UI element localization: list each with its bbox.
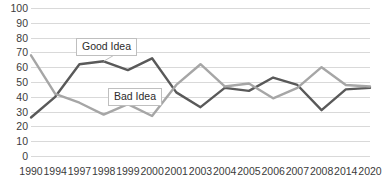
- callout-good-idea-label: Good Idea: [82, 40, 131, 52]
- x-axis-tick-label: 1997: [68, 166, 91, 177]
- x-axis-tick-label: 2003: [189, 166, 212, 177]
- x-axis-tick-label: 1998: [92, 166, 115, 177]
- x-axis-tick-label: 2006: [261, 166, 284, 177]
- x-axis-tick-label: 2000: [140, 166, 163, 177]
- x-axis-tick-label: 2007: [286, 166, 309, 177]
- x-axis-tick-label: 2005: [237, 166, 260, 177]
- x-axis-tick-label: 2004: [213, 166, 236, 177]
- x-axis: 1990199419971998199920002001200320042005…: [31, 166, 370, 184]
- x-axis-tick-label: 2001: [165, 166, 188, 177]
- callout-good-idea: Good Idea: [76, 38, 137, 56]
- x-axis-tick-label: 2020: [358, 166, 381, 177]
- callout-bad-idea: Bad Idea: [108, 88, 162, 106]
- callout-bad-idea-label: Bad Idea: [114, 90, 156, 102]
- x-axis-tick-label: 1994: [44, 166, 67, 177]
- x-axis-tick-label: 2008: [310, 166, 333, 177]
- x-axis-tick-label: 1990: [19, 166, 42, 177]
- x-axis-tick-label: 1999: [116, 166, 139, 177]
- x-axis-tick-label: 2014: [334, 166, 357, 177]
